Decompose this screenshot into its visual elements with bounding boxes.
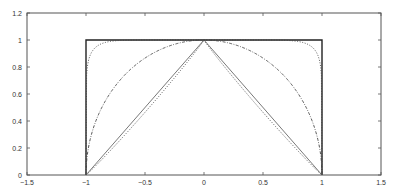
x-tick-label: −0.5: [138, 179, 152, 186]
series-line-4: [86, 40, 322, 175]
y-tick-label: 0.2: [12, 145, 22, 152]
series-line-0: [86, 40, 322, 175]
x-tick-label: −1.5: [20, 179, 34, 186]
x-tick-label: 0.5: [258, 179, 268, 186]
axes-frame: [27, 13, 381, 175]
y-tick-label: 1: [18, 37, 22, 44]
x-axis-tick-labels: −1.5−1−0.500.511.5: [20, 179, 386, 186]
y-tick-label: 0.8: [12, 64, 22, 71]
x-tick-label: 0: [202, 179, 206, 186]
x-tick-label: −1: [82, 179, 90, 186]
ticks-layer: [27, 13, 381, 175]
series-layer: [86, 40, 322, 175]
series-line-1: [86, 40, 322, 175]
line-chart: −1.5−1−0.500.511.5 00.20.40.60.811.2: [0, 0, 400, 194]
y-tick-label: 0.6: [12, 91, 22, 98]
y-tick-label: 0: [18, 172, 22, 179]
y-axis-tick-labels: 00.20.40.60.811.2: [12, 10, 22, 179]
x-tick-label: 1.5: [376, 179, 386, 186]
x-tick-label: 1: [320, 179, 324, 186]
series-line-2: [86, 40, 322, 175]
y-tick-label: 0.4: [12, 118, 22, 125]
series-line-3: [86, 40, 322, 175]
y-tick-label: 1.2: [12, 10, 22, 17]
